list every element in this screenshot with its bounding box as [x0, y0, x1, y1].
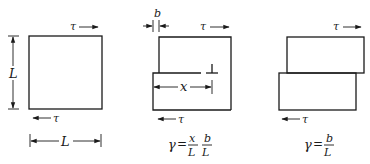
width-label: L — [60, 134, 70, 149]
fraction2-numerator: b — [204, 132, 211, 145]
equals-sign: = — [177, 137, 187, 151]
gamma-symbol: γ — [168, 137, 176, 152]
panel-undeformed: τ τ L L — [8, 20, 102, 149]
gamma-symbol: γ — [304, 137, 312, 152]
slip-distance-label: x — [180, 79, 188, 94]
shear-strain-formula-partial: γ = x L b L — [168, 132, 212, 159]
lower-block — [279, 73, 356, 110]
fraction1-denominator: L — [187, 146, 195, 159]
square-element — [29, 36, 102, 109]
tau-bottom-label: τ — [178, 113, 185, 126]
height-label: L — [8, 66, 18, 81]
offset-b-label: b — [154, 7, 161, 20]
panel-full-slip: τ τ γ = b L — [279, 20, 364, 159]
fraction1-numerator: x — [189, 132, 196, 145]
tau-top-label: τ — [333, 20, 340, 33]
equals-sign: = — [313, 137, 323, 151]
tau-top-label: τ — [70, 20, 77, 33]
panel-partial-slip: b τ x τ γ = x L b L — [143, 7, 231, 159]
fraction-numerator: b — [326, 132, 333, 145]
fraction-denominator: L — [323, 146, 331, 159]
fraction2-denominator: L — [201, 146, 209, 159]
shear-strain-formula-full: γ = b L — [304, 132, 334, 159]
tau-top-label: τ — [200, 20, 207, 33]
shear-slip-diagram: τ τ L L b τ — [0, 0, 370, 164]
tau-bottom-label: τ — [302, 113, 309, 126]
tau-bottom-label: τ — [53, 112, 60, 125]
lower-block-outline — [153, 73, 231, 110]
upper-block — [287, 37, 364, 73]
